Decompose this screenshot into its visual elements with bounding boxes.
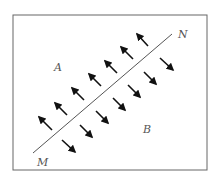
arrow-icon (96, 111, 108, 123)
point-m-label: M (36, 156, 49, 169)
arrow-icon (144, 72, 156, 84)
arrow-icon (105, 61, 117, 73)
arrow-icon (137, 34, 148, 46)
arrow-icon (128, 85, 140, 97)
region-a-label: A (53, 61, 62, 74)
arrow-icon (160, 58, 173, 70)
boundary-line-mn (33, 34, 172, 153)
arrow-icon (62, 140, 75, 152)
field-diagram: A B M N (0, 0, 218, 181)
arrow-icon (72, 88, 84, 100)
arrows-region-a (39, 34, 148, 130)
point-n-label: N (177, 28, 188, 41)
arrow-icon (80, 125, 92, 137)
arrow-icon (89, 74, 101, 86)
arrow-icon (55, 103, 67, 115)
arrows-region-b (62, 58, 173, 152)
arrow-icon (113, 98, 125, 110)
arrow-icon (121, 47, 133, 59)
region-b-label: B (142, 123, 151, 136)
arrow-icon (39, 117, 52, 130)
